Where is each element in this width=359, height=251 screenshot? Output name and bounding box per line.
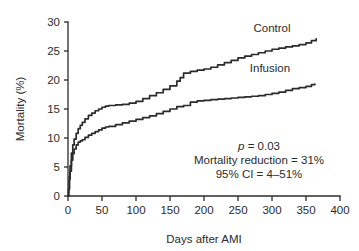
y-tick-label-0: 0 xyxy=(54,190,60,202)
x-axis-title: Days after AMI xyxy=(166,233,241,245)
x-tick-label-250: 250 xyxy=(228,204,247,216)
series-label-infusion: Infusion xyxy=(250,62,290,74)
annotation-line-1: p = 0.03 xyxy=(237,140,280,152)
y-axis-title: Mortality (%) xyxy=(14,77,26,142)
annotation-line-3: 95% CI = 4–51% xyxy=(216,168,303,180)
y-tick-label-25: 25 xyxy=(47,45,60,57)
x-tick-label-400: 400 xyxy=(330,204,349,216)
chart-page: 051015202530 050100150200250300350400 Da… xyxy=(0,0,359,251)
x-tick-label-0: 0 xyxy=(65,204,71,216)
mortality-chart: 051015202530 050100150200250300350400 Da… xyxy=(0,0,359,251)
annotation-line-2: Mortality reduction = 31% xyxy=(194,154,324,166)
x-tick-label-50: 50 xyxy=(96,204,109,216)
series-label-control: Control xyxy=(253,22,290,34)
x-tick-label-100: 100 xyxy=(126,204,145,216)
x-tick-labels: 050100150200250300350400 xyxy=(65,204,350,216)
y-tick-label-10: 10 xyxy=(47,132,60,144)
x-tick-label-350: 350 xyxy=(296,204,315,216)
y-tick-label-5: 5 xyxy=(54,161,60,173)
y-tick-label-30: 30 xyxy=(47,16,60,28)
y-tick-label-20: 20 xyxy=(47,74,60,86)
x-tick-label-300: 300 xyxy=(262,204,281,216)
x-tick-label-200: 200 xyxy=(194,204,213,216)
y-tick-label-15: 15 xyxy=(47,103,60,115)
x-tick-label-150: 150 xyxy=(160,204,179,216)
